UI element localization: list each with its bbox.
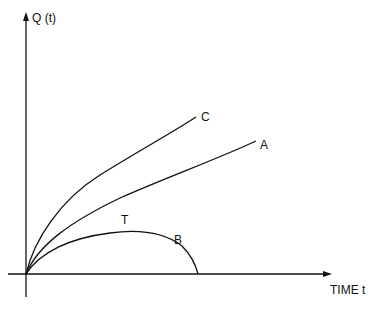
curve-label-a: A: [260, 138, 268, 152]
curve-tb: [26, 232, 198, 274]
y-axis-label: Q (t): [32, 11, 56, 25]
curve-label-b: B: [174, 233, 182, 247]
y-axis-arrow-icon: [23, 12, 29, 21]
curve-a: [26, 141, 256, 274]
figure-canvas: Q (t) TIME t C A T B: [0, 0, 376, 310]
curve-label-c: C: [201, 110, 210, 124]
curve-label-t: T: [121, 213, 129, 227]
x-axis-label: TIME t: [330, 283, 366, 297]
x-axis-arrow-icon: [323, 271, 332, 277]
